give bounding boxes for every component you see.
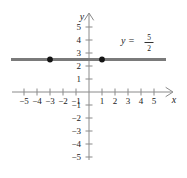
y-tick-label--3: −3 bbox=[71, 126, 81, 136]
equation-numerator: 5 bbox=[147, 33, 151, 42]
equation-label: y = 5 2 bbox=[120, 33, 154, 53]
equation-denominator: 2 bbox=[147, 44, 151, 53]
y-tick-label--5: −5 bbox=[71, 152, 81, 162]
y-tick-label--4: −4 bbox=[71, 139, 81, 149]
coordinate-plane-graph: −5 −4 −3 −2 −1 1 2 3 4 5 5 4 3 2 1 −1 −2… bbox=[0, 0, 187, 178]
x-tick-label--5: −5 bbox=[19, 96, 29, 106]
y-axis-label: y bbox=[79, 11, 85, 22]
equation-lhs: y = bbox=[120, 35, 135, 46]
plotted-point bbox=[99, 57, 105, 63]
y-tick-label-1: 1 bbox=[77, 74, 82, 84]
x-tick-label-5: 5 bbox=[152, 96, 157, 106]
y-tick-label--2: −2 bbox=[71, 113, 81, 123]
y-tick-label-5: 5 bbox=[77, 22, 82, 32]
x-tick-label--2: −2 bbox=[58, 96, 68, 106]
y-tick-label--1: −1 bbox=[71, 100, 81, 110]
x-tick-label-3: 3 bbox=[126, 96, 131, 106]
y-tick-label-2: 2 bbox=[77, 61, 82, 71]
graph-canvas: −5 −4 −3 −2 −1 1 2 3 4 5 5 4 3 2 1 −1 −2… bbox=[0, 0, 187, 178]
y-tick-label-3: 3 bbox=[77, 48, 82, 58]
x-axis-label: x bbox=[171, 94, 177, 105]
y-tick-label-4: 4 bbox=[77, 35, 82, 45]
x-tick-label-4: 4 bbox=[139, 96, 144, 106]
plotted-point bbox=[47, 57, 53, 63]
x-tick-label--4: −4 bbox=[32, 96, 42, 106]
x-tick-label-1: 1 bbox=[100, 96, 105, 106]
x-tick-label-2: 2 bbox=[113, 96, 118, 106]
x-tick-label--3: −3 bbox=[45, 96, 55, 106]
